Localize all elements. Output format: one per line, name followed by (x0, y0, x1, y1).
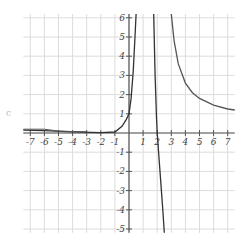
x-tick-label: 6 (211, 137, 217, 147)
y-tick-label: 3 (119, 70, 125, 80)
y-tick-label: -3 (116, 186, 125, 196)
x-tick-label: 2 (153, 137, 160, 147)
y-tick-label: -1 (116, 147, 125, 157)
y-tick-label: -2 (116, 166, 125, 176)
x-tick-label: -6 (40, 137, 49, 147)
tick-labels: -7-6-5-4-3-2-11234567-5-4-3-2-1123456 (26, 13, 231, 234)
right-branch-curve (171, 14, 235, 110)
middle-branch-curve (154, 14, 165, 233)
y-tick-label: 5 (119, 32, 125, 42)
x-tick-label: 1 (140, 137, 146, 147)
y-tick-label: 6 (119, 13, 125, 23)
y-tick-label: 2 (118, 90, 125, 100)
x-tick-label: 7 (225, 137, 231, 147)
x-tick-label: 4 (182, 137, 189, 147)
x-tick-label: -3 (82, 137, 91, 147)
axes (23, 14, 235, 233)
stray-mark: c (6, 108, 11, 118)
x-tick-label: -1 (111, 137, 120, 147)
y-tick-label: 4 (118, 51, 125, 61)
y-tick-label: -4 (116, 205, 125, 215)
function-graph: -7-6-5-4-3-2-11234567-5-4-3-2-1123456 (0, 0, 248, 252)
x-tick-label: -5 (54, 137, 63, 147)
x-tick-label: 3 (168, 137, 174, 147)
x-tick-label: -4 (68, 137, 77, 147)
x-tick-label: 5 (197, 137, 203, 147)
x-tick-label: -2 (96, 137, 105, 147)
x-tick-label: -7 (26, 137, 35, 147)
y-tick-label: 1 (119, 109, 125, 119)
y-tick-label: -5 (116, 224, 125, 234)
